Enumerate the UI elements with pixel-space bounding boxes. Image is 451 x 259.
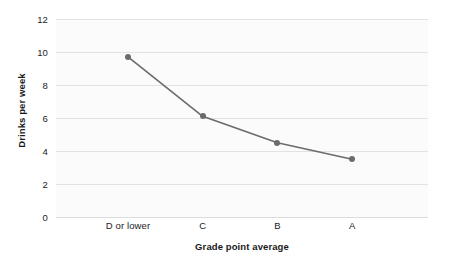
data-line: [56, 19, 428, 217]
x-axis-tick-labels: D or lowerCBA: [56, 220, 428, 234]
y-axis-tick-label: 4: [43, 146, 48, 157]
plot-area: [56, 19, 428, 217]
y-axis-tick-label: 2: [43, 179, 48, 190]
x-axis-tick-label: B: [274, 220, 280, 231]
data-series-layer: [56, 19, 428, 217]
data-point-marker: [274, 140, 280, 146]
y-axis-tick-label: 6: [43, 113, 48, 124]
y-axis-tick-label: 12: [37, 14, 48, 25]
y-axis-title-text: Drinks per week: [16, 73, 27, 147]
data-point-marker: [125, 54, 131, 60]
y-axis-tick-label: 8: [43, 80, 48, 91]
y-axis-tick-label: 10: [37, 47, 48, 58]
x-axis-tick-label: D or lower: [106, 220, 150, 231]
data-point-marker: [349, 156, 355, 162]
x-axis-title-text: Grade point average: [195, 241, 289, 252]
y-axis-tick-label: 0: [43, 212, 48, 223]
x-axis-title: Grade point average: [56, 236, 428, 254]
chart-figure: 024681012 D or lowerCBA Drinks per week …: [0, 0, 451, 259]
data-point-marker: [200, 113, 206, 119]
gridline: [56, 217, 428, 218]
x-axis-tick-label: C: [199, 220, 206, 231]
x-axis-tick-label: A: [349, 220, 355, 231]
y-axis-title: Drinks per week: [14, 50, 28, 170]
